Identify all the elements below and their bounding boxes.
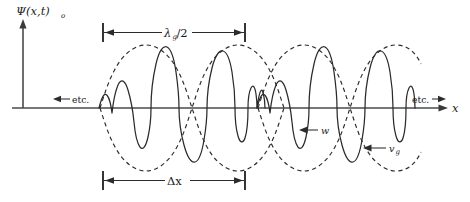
phase-velocity-arrowhead (299, 127, 308, 134)
etc-right-label: etc. (412, 94, 429, 105)
delta-x-arrowhead-right (234, 177, 243, 184)
delta-x-label: Δx (167, 174, 182, 188)
x-axis-arrowhead (439, 104, 449, 111)
wavelength-label: λ (163, 26, 171, 40)
delta-x-dimension: Δx (103, 171, 245, 190)
x-axis-label: x (452, 101, 459, 115)
wavelength-label-divisor: /2 (177, 26, 188, 40)
delta-x-arrowhead-left (105, 177, 114, 184)
etc-left-arrowhead (53, 96, 61, 102)
wavelength-arrowhead-left (105, 29, 114, 36)
group-velocity-annotation: v g (363, 143, 401, 157)
etc-right-arrowhead (438, 96, 446, 102)
group-velocity-label-subscript: g (396, 148, 401, 156)
etc-left-label: etc. (72, 94, 89, 105)
figure-svg: Ψ(x,t) o x λ g /2 (0, 0, 470, 202)
y-axis-arrowhead (19, 19, 26, 29)
y-axis-label: Ψ(x,t) (16, 4, 50, 18)
wavelength-arrowhead-right (234, 29, 243, 36)
group-velocity-label: v (389, 143, 395, 154)
etc-left-annotation: etc. (53, 94, 89, 105)
etc-right-annotation: etc. (412, 94, 446, 105)
y-axis-label-subscript: o (61, 12, 65, 20)
phase-velocity-annotation: w (299, 125, 330, 136)
wavelength-dimension: λ g /2 (103, 23, 245, 42)
carrier-wave-packet-1 (99, 47, 265, 162)
wave-packet-figure: Ψ(x,t) o x λ g /2 (0, 0, 470, 202)
phase-velocity-label: w (321, 125, 330, 136)
